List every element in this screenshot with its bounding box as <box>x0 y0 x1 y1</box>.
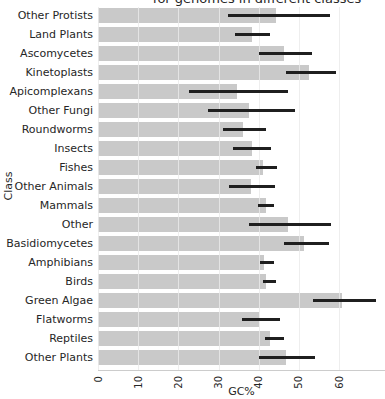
error-bar <box>242 318 280 321</box>
x-tick-label: 10 <box>132 371 145 384</box>
x-tick-label: 30 <box>212 371 225 384</box>
gridline-overlay <box>219 7 220 370</box>
error-bar <box>233 147 271 150</box>
bar <box>98 160 263 175</box>
error-bar <box>235 33 270 36</box>
gridline-overlay <box>259 7 260 370</box>
bar-chart-figure: for genomes in different classes Class O… <box>0 0 385 399</box>
error-bar <box>260 261 274 264</box>
bar <box>98 46 284 61</box>
error-bar <box>249 223 331 226</box>
bar <box>98 141 252 156</box>
gridline-overlay <box>339 7 340 370</box>
x-tick-label: 40 <box>252 371 265 384</box>
error-bar <box>189 90 288 93</box>
x-axis-label: GC% <box>98 385 385 398</box>
error-bar <box>228 14 330 17</box>
error-bar <box>259 52 312 55</box>
error-bar <box>258 204 274 207</box>
bar <box>98 236 304 251</box>
bar <box>98 293 342 308</box>
x-tick-label: 50 <box>292 371 305 384</box>
error-bar <box>223 128 266 131</box>
bar <box>98 274 266 289</box>
bar <box>98 255 264 270</box>
error-bar <box>256 166 277 169</box>
bar <box>98 198 266 213</box>
error-bar <box>313 299 376 302</box>
gridline-overlay <box>138 7 139 370</box>
x-tick-label: 60 <box>333 371 346 384</box>
bar <box>98 27 252 42</box>
gridline-overlay <box>98 7 99 370</box>
error-bar <box>286 71 336 74</box>
gridline-overlay <box>178 7 179 370</box>
bar <box>98 65 309 80</box>
error-bar <box>229 185 276 188</box>
error-bar <box>284 242 329 245</box>
gridline-overlay <box>299 7 300 370</box>
x-tick-label: 0 <box>92 371 105 384</box>
x-tick-label: 20 <box>172 371 185 384</box>
error-bar <box>263 280 276 283</box>
error-bar <box>265 337 283 340</box>
error-bar <box>259 356 315 359</box>
error-bar <box>208 109 295 112</box>
bar <box>98 331 270 346</box>
